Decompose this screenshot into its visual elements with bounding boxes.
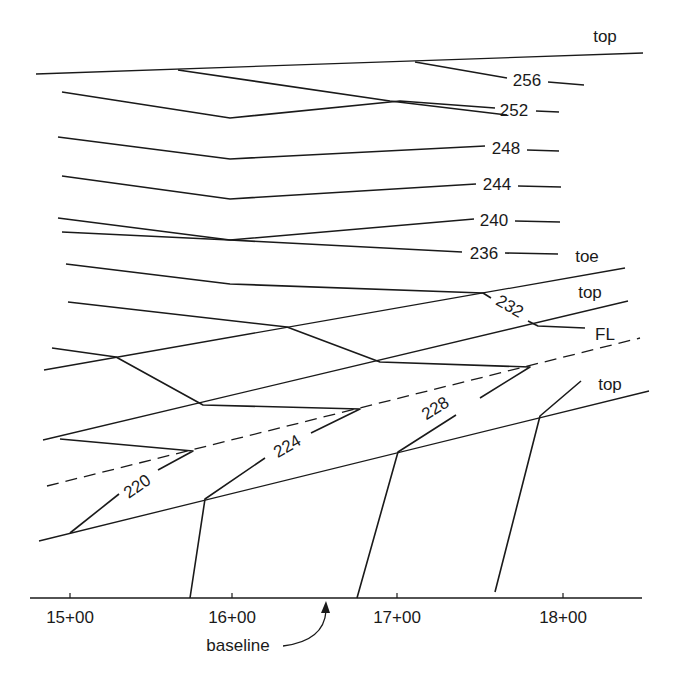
contour-label-232: 232 xyxy=(493,291,527,322)
contour-232 xyxy=(66,264,491,298)
contour-240 xyxy=(58,218,474,240)
contour-label-224: 224 xyxy=(270,431,304,462)
contour-256 xyxy=(178,70,507,115)
contour-unlabeled xyxy=(495,381,581,592)
contour-256 xyxy=(415,62,507,78)
contour-224 xyxy=(190,458,265,598)
station-label: 18+00 xyxy=(539,608,587,627)
contour-244 xyxy=(518,186,561,187)
baseline-label: baseline xyxy=(206,636,269,655)
contour-236 xyxy=(505,253,558,254)
contour-label-252: 252 xyxy=(500,101,528,120)
fill-line-line xyxy=(47,338,640,486)
toe-line xyxy=(44,268,625,370)
contour-label-236: 236 xyxy=(470,244,498,263)
slope-lines xyxy=(36,53,649,541)
contour-252 xyxy=(536,111,559,112)
top-upper-line xyxy=(36,53,643,74)
station-label: 16+00 xyxy=(208,608,256,627)
toe-label: toe xyxy=(575,247,599,266)
contour-label-256: 256 xyxy=(513,71,541,90)
baseline-arrow xyxy=(283,611,326,646)
contour-240 xyxy=(515,221,560,222)
contour-244 xyxy=(62,176,476,199)
station-label: 15+00 xyxy=(46,608,94,627)
contour-label-248: 248 xyxy=(492,139,520,158)
contour-220 xyxy=(60,439,193,470)
station-label: 17+00 xyxy=(373,608,421,627)
fill-line-label: FL xyxy=(595,325,615,344)
contour-248 xyxy=(58,137,485,159)
labels: toptoetopFLtop25625224824424023623222822… xyxy=(46,27,622,655)
contour-248 xyxy=(527,150,559,151)
contour-236 xyxy=(62,232,462,252)
grading-diagram: toptoetopFLtop25625224824424023623222822… xyxy=(0,0,689,690)
contour-228 xyxy=(68,302,530,398)
contour-232 xyxy=(528,321,585,328)
contour-label-240: 240 xyxy=(480,211,508,230)
top-upper-label: top xyxy=(593,27,617,46)
contour-label-244: 244 xyxy=(483,175,511,194)
top-lower-line xyxy=(39,391,649,541)
contour-256 xyxy=(548,82,584,85)
contour-label-228: 228 xyxy=(418,393,452,424)
top-middle-line xyxy=(43,301,628,440)
contour-label-220: 220 xyxy=(120,470,154,502)
arrowhead-icon xyxy=(321,601,330,613)
top-lower-label: top xyxy=(598,375,622,394)
top-middle-label: top xyxy=(578,283,602,302)
